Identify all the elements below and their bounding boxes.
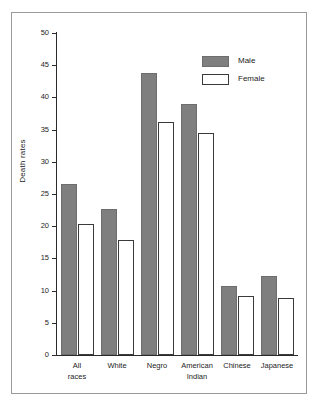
x-tick-label-line1: All <box>73 361 81 370</box>
x-axis-line <box>56 355 298 356</box>
bar-male <box>221 286 237 355</box>
x-tick-label-line1: White <box>107 361 126 370</box>
x-tick-label: White <box>107 360 126 371</box>
y-tick-mark <box>52 65 57 66</box>
legend-swatch-male <box>202 56 229 67</box>
bar-male <box>181 104 197 355</box>
x-tick-label-line2: Indian <box>181 371 213 382</box>
y-tick-mark <box>52 226 57 227</box>
y-tick-label: 45 <box>41 61 49 69</box>
bar-female <box>118 240 134 355</box>
chart-legend: MaleFemale <box>202 54 294 90</box>
bar-female <box>78 224 94 355</box>
y-tick-label: 35 <box>41 126 49 134</box>
bar-male <box>101 209 117 355</box>
bar-female <box>238 296 254 355</box>
legend-swatch-female <box>202 74 229 85</box>
chart-figure: Death rates 05101520253035404550 Allrace… <box>0 0 322 411</box>
x-tick-label: Chinese <box>223 360 251 371</box>
x-tick-label-line1: Japanese <box>261 361 294 370</box>
y-tick-label: 50 <box>41 29 49 37</box>
y-tick-mark <box>52 291 57 292</box>
y-tick-label: 0 <box>45 351 49 359</box>
legend-label: Female <box>238 75 265 83</box>
bar-male <box>61 184 77 355</box>
y-tick-label: 40 <box>41 94 49 102</box>
y-tick-label: 5 <box>45 319 49 327</box>
bar-female <box>198 133 214 355</box>
y-axis-title: Death rates <box>18 139 27 183</box>
y-tick-label: 30 <box>41 158 49 166</box>
bar-female <box>278 298 294 355</box>
y-tick-mark <box>52 194 57 195</box>
x-tick-label-line1: American <box>181 361 213 370</box>
legend-label: Male <box>238 57 255 65</box>
x-tick-label-line1: Negro <box>147 361 167 370</box>
bar-male <box>261 276 277 355</box>
y-tick-mark <box>52 130 57 131</box>
x-tick-label: AmericanIndian <box>181 360 213 382</box>
y-tick-label: 20 <box>41 222 49 230</box>
y-tick-label: 15 <box>41 255 49 263</box>
x-tick-label-line1: Chinese <box>223 361 251 370</box>
y-tick-mark <box>52 323 57 324</box>
x-tick-label-line2: races <box>68 371 86 382</box>
x-tick-label: Allraces <box>68 360 86 382</box>
legend-item-male: Male <box>202 54 294 68</box>
y-tick-mark <box>52 258 57 259</box>
x-tick-label: Negro <box>147 360 167 371</box>
legend-item-female: Female <box>202 72 294 86</box>
bar-male <box>141 73 157 355</box>
y-tick-mark <box>52 97 57 98</box>
y-tick-mark <box>52 355 57 356</box>
bar-female <box>158 122 174 355</box>
x-tick-label: Japanese <box>261 360 294 371</box>
y-tick-label: 25 <box>41 190 49 198</box>
y-tick-label: 10 <box>41 287 49 295</box>
y-tick-mark <box>52 33 57 34</box>
y-tick-mark <box>52 162 57 163</box>
